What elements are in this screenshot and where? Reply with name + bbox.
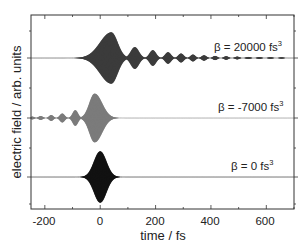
annotation-beta-0: β = 0 fs3	[231, 158, 273, 172]
x-tick-label: 0	[97, 215, 103, 227]
x-tick-labels: -200 0 200 400 600	[32, 215, 274, 227]
x-tick-label: 400	[200, 215, 219, 227]
chart-figure: -200 0 200 400 600 time / fs electric fi…	[0, 0, 307, 251]
x-tick-label: 600	[255, 215, 274, 227]
x-axis-label: time / fs	[140, 228, 186, 243]
plot-area	[31, 33, 294, 203]
y-axis-label: electric field / arb. units	[9, 45, 24, 178]
annotation-beta-20000: β = 20000 fs3	[214, 39, 282, 53]
annotation-beta-minus-7000: β = -7000 fs3	[218, 99, 283, 113]
x-tick-label: 200	[145, 215, 164, 227]
x-tick-label: -200	[32, 215, 55, 227]
